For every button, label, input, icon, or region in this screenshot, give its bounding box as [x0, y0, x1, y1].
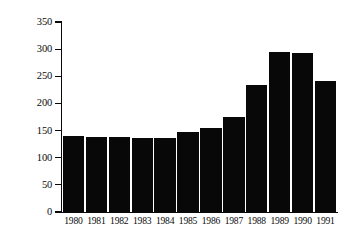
x-axis-tick-label: 1988 [245, 214, 268, 228]
bar [246, 85, 267, 212]
bar [177, 132, 198, 212]
bar [154, 138, 175, 212]
x-axis-tick-labels: 1980198119821983198419851986198719881989… [62, 214, 338, 230]
bar [292, 53, 313, 212]
x-axis-tick-label: 1980 [62, 214, 85, 228]
bar [109, 137, 130, 212]
x-axis-tick-label: 1986 [200, 214, 223, 228]
y-axis-tick-label: 200 [18, 98, 52, 109]
x-axis-tick-label: 1981 [85, 214, 108, 228]
x-axis-tick-label: 1985 [177, 214, 200, 228]
y-axis-tick-label: 100 [18, 153, 52, 164]
y-axis-tick [55, 157, 62, 158]
y-axis-tick [55, 21, 62, 22]
y-axis-tick [55, 211, 62, 212]
y-axis-tick-label: 0 [18, 207, 52, 218]
bar [86, 137, 107, 212]
bar-series [62, 22, 338, 212]
bar [315, 81, 336, 212]
bar [132, 138, 153, 212]
bar [200, 128, 221, 212]
y-axis-tick [55, 49, 62, 50]
x-axis-tick-label: 1984 [154, 214, 177, 228]
y-axis-tick-label: 50 [18, 180, 52, 191]
x-axis-tick-label: 1989 [268, 214, 291, 228]
y-axis-tick-label: 150 [18, 126, 52, 137]
bar [63, 136, 84, 212]
bar [269, 52, 290, 212]
x-axis-tick-label: 1987 [222, 214, 245, 228]
x-axis-tick-label: 1991 [314, 214, 337, 228]
y-axis-tick [55, 103, 62, 104]
y-axis-tick [55, 130, 62, 131]
x-axis-tick-label: 1990 [291, 214, 314, 228]
x-axis-tick-label: 1982 [108, 214, 131, 228]
y-axis-tick-label: 300 [18, 44, 52, 55]
y-axis-tick [55, 76, 62, 77]
bar [223, 117, 244, 212]
y-axis-tick-label: 250 [18, 71, 52, 82]
x-axis-tick-label: 1983 [131, 214, 154, 228]
bar-chart: £Million 050100150200250300350 198019811… [0, 0, 350, 244]
y-axis-tick-label: 350 [18, 17, 52, 28]
y-axis-tick [55, 184, 62, 185]
